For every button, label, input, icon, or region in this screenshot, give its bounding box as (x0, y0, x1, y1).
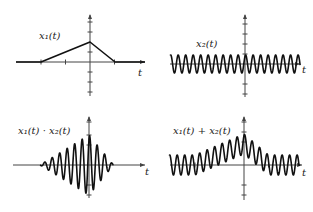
amplitude-axis-arrow-icon (88, 14, 92, 19)
amplitude-axis-arrow-icon (87, 116, 91, 121)
x2-label: x₂(t) (196, 38, 218, 49)
amplitude-axis-arrow-icon (242, 116, 246, 121)
x1-label: x₁(t) (39, 30, 61, 41)
x1-waveform (16, 42, 145, 62)
panel-sum: x₁(t) + x₂(t) t (169, 116, 307, 200)
sum-label: x₁(t) + x₂(t) (173, 125, 231, 136)
panel-product: x₁(t) · x₂(t) t (13, 116, 150, 198)
panel-x2: x₂(t) t (170, 14, 307, 97)
panel-x1: x₁(t) t (16, 14, 145, 96)
t-axis-label: t (302, 64, 307, 75)
signal-diagram: x₁(t) t x₂(t) t x₁(t) · x₂(t) t x₁(t) + … (0, 0, 313, 212)
t-axis-label: t (302, 167, 307, 178)
t-axis-label: t (145, 166, 150, 177)
product-waveform (40, 136, 114, 193)
product-label: x₁(t) · x₂(t) (18, 125, 71, 136)
t-axis-label: t (138, 67, 143, 78)
amplitude-axis-arrow-icon (243, 14, 247, 19)
sum-waveform (169, 135, 299, 175)
